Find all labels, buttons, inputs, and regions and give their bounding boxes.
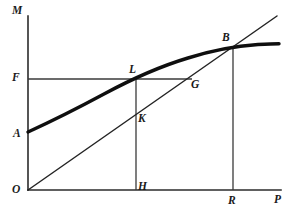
concave-curve-ab xyxy=(28,44,279,132)
point-label-a: A xyxy=(13,128,21,140)
figure-container: M P O F A L G B K H R xyxy=(0,0,292,216)
point-label-b: B xyxy=(222,32,230,44)
point-label-f: F xyxy=(12,72,20,84)
point-label-h: H xyxy=(138,181,147,193)
axis-label-p: P xyxy=(274,194,281,206)
axis-label-origin: O xyxy=(12,184,20,196)
ray-line-ob xyxy=(28,16,277,190)
point-label-g: G xyxy=(191,79,199,91)
point-label-r: R xyxy=(228,195,236,207)
axis-label-m: M xyxy=(12,5,22,17)
point-label-k: K xyxy=(138,113,146,125)
point-label-l: L xyxy=(129,64,136,76)
